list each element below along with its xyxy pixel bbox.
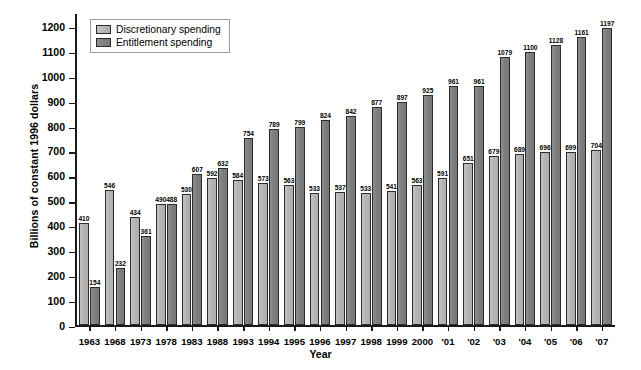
bar-value-label: 154 [87,279,103,286]
x-tick-label-1988: 1988 [205,336,231,347]
x-tick-label-'01: '01 [435,336,461,347]
y-tick-300 [69,252,75,253]
bar-value-label: 1128 [548,37,564,44]
legend-label-entitlement: Entitlement spending [116,37,212,48]
bar-1993-entitlement [244,138,254,326]
bar-'02-discretionary [463,163,473,325]
bar-1999-entitlement [397,102,407,325]
legend-label-discretionary: Discretionary spending [116,24,221,35]
bar-chart: Billions of constant 1996 dollars 410154… [0,0,641,370]
bar-value-label: 546 [102,182,118,189]
x-tick-1988 [217,325,218,331]
bar-2000-entitlement [423,95,433,325]
x-tick-label-1998: 1998 [358,336,384,347]
y-tick-800 [69,128,75,129]
x-tick-label-1983: 1983 [179,336,205,347]
bar-group: 563799 [284,14,305,325]
x-tick-label-1973: 1973 [128,336,154,347]
legend-swatch-icon-entitlement [96,38,111,47]
x-axis-title: Year [0,348,641,360]
bar-1993-discretionary [233,180,243,325]
bar-value-label: 1161 [574,29,590,36]
y-tick-900 [69,103,75,104]
bar-group: 533824 [310,14,331,325]
x-tick-1998 [371,325,372,331]
bar-1998-entitlement [372,107,382,325]
x-tick-1997 [346,325,347,331]
x-tick-label-'04: '04 [512,336,538,347]
legend-swatch-icon-discretionary [96,25,111,34]
x-tick-2000 [422,325,423,331]
bar-value-label: 607 [189,166,205,173]
y-tick-label-500: 500 [25,195,65,207]
y-tick-label-600: 600 [25,170,65,182]
y-tick-label-1200: 1200 [25,21,65,33]
bars-layer: 4101541963546232196843436119734904881978… [77,14,615,325]
x-tick-label-1993: 1993 [230,336,256,347]
bar-group: 546232 [105,14,126,325]
bar-1996-discretionary [310,193,320,326]
y-tick-700 [69,152,75,153]
bar-group: 410154 [79,14,100,325]
bar-group: 592632 [207,14,228,325]
y-tick-label-700: 700 [25,145,65,157]
y-tick-label-1000: 1000 [25,71,65,83]
y-tick-1100 [69,53,75,54]
bar-group: 537842 [335,14,356,325]
bar-value-label: 799 [292,119,308,126]
bar-1988-discretionary [207,178,217,325]
bar-value-label: 961 [446,78,462,85]
bar-1963-discretionary [79,223,89,325]
y-tick-600 [69,177,75,178]
bar-'05-entitlement [551,45,561,326]
x-tick-'03 [499,325,500,331]
bar-group: 533877 [361,14,382,325]
bar-1995-discretionary [284,185,294,325]
bar-'07-entitlement [602,28,612,326]
bar-value-label: 434 [127,209,143,216]
bar-1998-discretionary [361,193,371,326]
bar-value-label: 410 [76,215,92,222]
x-tick-label-1978: 1978 [153,336,179,347]
bar-value-label: 488 [164,196,180,203]
y-tick-label-0: 0 [25,320,65,332]
bar-value-label: 925 [420,87,436,94]
x-tick-label-1996: 1996 [307,336,333,347]
x-tick-1993 [243,325,244,331]
y-tick-100 [69,302,75,303]
bar-1973-entitlement [141,236,151,326]
x-tick-1978 [166,325,167,331]
y-tick-label-100: 100 [25,295,65,307]
bar-value-label: 754 [241,130,257,137]
bar-1995-entitlement [295,127,305,326]
bar-value-label: 897 [394,94,410,101]
x-tick-1999 [397,325,398,331]
x-tick-label-1994: 1994 [256,336,282,347]
y-tick-0 [69,327,75,328]
x-tick-label-1963: 1963 [77,336,103,347]
x-tick-1973 [141,325,142,331]
y-tick-1200 [69,28,75,29]
x-tick-1968 [115,325,116,331]
bar-group: 584754 [233,14,254,325]
bar-group: 591961 [438,14,459,325]
bar-group: 651961 [463,14,484,325]
x-tick-label-'05: '05 [538,336,564,347]
x-tick-'05 [551,325,552,331]
bar-value-label: 877 [369,99,385,106]
bar-'04-discretionary [515,154,525,325]
x-tick-1994 [269,325,270,331]
bar-1994-entitlement [269,129,279,325]
bar-1978-discretionary [156,204,166,326]
bar-'01-discretionary [438,178,448,325]
bar-1997-entitlement [346,116,356,325]
plot-area: 4101541963546232196843436119734904881978… [75,14,615,327]
bar-'07-discretionary [591,150,601,325]
bar-group: 490488 [156,14,177,325]
bar-'06-discretionary [566,152,576,326]
y-tick-label-1100: 1100 [25,46,65,58]
bar-value-label: 232 [113,260,129,267]
bar-1996-entitlement [321,120,331,325]
y-tick-200 [69,277,75,278]
x-tick-1995 [294,325,295,331]
